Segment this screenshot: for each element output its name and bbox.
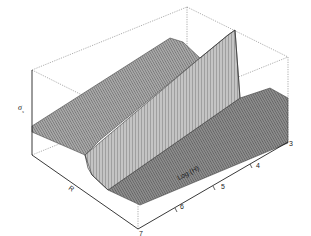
x-tick-4: 4 [256, 162, 260, 169]
x-tick-6: 6 [180, 203, 184, 210]
x-tick-5: 5 [221, 183, 225, 190]
z-axis-label: σs [18, 103, 24, 114]
x-tick-3: 3 [289, 140, 293, 147]
x-tick-7: 7 [139, 230, 143, 236]
surface-plot [0, 0, 311, 236]
